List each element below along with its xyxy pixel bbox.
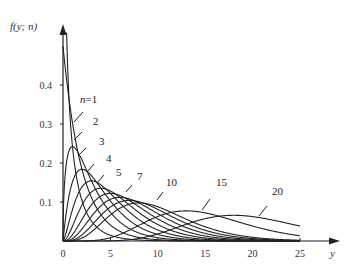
curve-label: 3 — [99, 135, 105, 147]
x-tick-label: 25 — [295, 248, 305, 259]
leader-line — [126, 185, 132, 192]
curve-label: 20 — [272, 185, 284, 197]
curve-label: n=1 — [80, 93, 97, 105]
leader-line — [259, 206, 267, 216]
curve-label: 7 — [137, 170, 143, 182]
x-tick-label: 0 — [61, 248, 66, 259]
curve-labels: n=123457101520 — [80, 93, 284, 197]
y-tick-label: 0.3 — [40, 119, 53, 130]
y-axis-arrow-icon — [60, 24, 67, 35]
curve-label: 4 — [106, 152, 112, 164]
label-leader-lines — [74, 112, 267, 216]
y-tick-label: 0.4 — [40, 80, 53, 91]
y-tick-label: 0.1 — [40, 197, 53, 208]
curve-n=3 — [63, 147, 300, 241]
x-axis-arrow-icon — [329, 238, 340, 245]
leader-line — [79, 148, 86, 155]
y-tick-label: 0.2 — [40, 158, 53, 169]
x-tick-label: 5 — [108, 248, 113, 259]
x-axis-title: y — [329, 247, 335, 259]
x-tick-label: 15 — [200, 248, 210, 259]
leader-line — [87, 164, 94, 172]
curve-n=6 — [63, 188, 300, 241]
curve-n=9 — [63, 200, 300, 241]
curve-label: 10 — [166, 176, 178, 188]
curve-label: 5 — [116, 166, 122, 178]
leader-line — [97, 175, 104, 183]
leader-line — [74, 112, 83, 122]
leader-line — [157, 192, 163, 200]
curve-label: 2 — [93, 115, 99, 127]
chi-square-density-chart: 05101520250.10.20.30.4 n=123457101520 f(… — [0, 0, 350, 278]
curve-label: 15 — [216, 176, 228, 188]
y-axis-title: f(y; n) — [10, 20, 38, 33]
leader-line — [202, 199, 210, 210]
curve-n=8 — [63, 197, 300, 241]
x-tick-label: 20 — [248, 248, 258, 259]
x-tick-label: 10 — [153, 248, 163, 259]
